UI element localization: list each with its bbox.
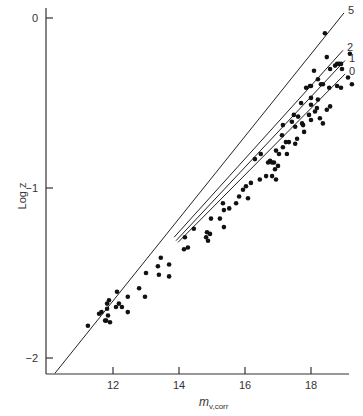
data-point bbox=[323, 31, 328, 36]
data-point bbox=[339, 62, 344, 67]
x-ticks: 12141618 bbox=[107, 367, 317, 391]
data-point bbox=[183, 235, 188, 240]
regression-lines bbox=[55, 13, 345, 373]
data-point bbox=[237, 194, 242, 199]
data-point bbox=[157, 272, 162, 277]
data-point bbox=[227, 206, 232, 211]
data-point bbox=[103, 318, 108, 323]
data-point bbox=[259, 152, 264, 157]
data-point bbox=[272, 160, 277, 165]
data-point bbox=[350, 82, 355, 87]
data-point bbox=[159, 255, 164, 260]
line-label-0: 0 bbox=[349, 65, 355, 77]
data-point bbox=[218, 216, 223, 221]
data-point bbox=[192, 227, 197, 232]
data-point bbox=[222, 225, 227, 230]
line-labels: 5210 bbox=[347, 4, 355, 77]
data-point bbox=[167, 274, 172, 279]
data-point bbox=[313, 109, 318, 114]
x-tick-label: 16 bbox=[239, 379, 251, 391]
y-tick-label: 0 bbox=[32, 12, 38, 24]
data-point bbox=[293, 125, 298, 130]
data-point bbox=[285, 152, 290, 157]
data-point bbox=[167, 262, 172, 267]
x-axis-title: mv,corr bbox=[199, 395, 229, 411]
data-point bbox=[339, 85, 344, 90]
data-point bbox=[321, 121, 326, 126]
line-label-1: 1 bbox=[349, 52, 355, 64]
line-label-5: 5 bbox=[348, 4, 354, 16]
data-point bbox=[208, 232, 213, 237]
data-point bbox=[292, 113, 297, 118]
data-point bbox=[107, 298, 112, 303]
data-point bbox=[270, 174, 275, 179]
data-point bbox=[325, 55, 330, 60]
data-point bbox=[264, 174, 269, 179]
data-point bbox=[204, 235, 209, 240]
data-point bbox=[319, 82, 324, 87]
data-point bbox=[340, 67, 345, 72]
data-point bbox=[249, 181, 254, 186]
data-point bbox=[287, 140, 292, 145]
data-point bbox=[281, 145, 286, 150]
data-point bbox=[126, 310, 131, 315]
data-point bbox=[309, 118, 314, 123]
data-point bbox=[325, 108, 330, 113]
data-point bbox=[295, 136, 300, 141]
line-5 bbox=[55, 13, 344, 373]
data-point bbox=[301, 123, 306, 128]
data-point bbox=[328, 104, 333, 109]
data-point bbox=[312, 68, 317, 73]
data-point bbox=[318, 116, 323, 121]
data-point bbox=[327, 85, 332, 90]
data-point bbox=[114, 305, 119, 310]
y-ticks: 0−1−2 bbox=[25, 12, 53, 364]
y-tick-label: −2 bbox=[25, 352, 38, 364]
data-point bbox=[316, 97, 321, 102]
data-point bbox=[137, 286, 142, 291]
data-point bbox=[126, 295, 131, 300]
data-point bbox=[293, 142, 298, 147]
x-tick-label: 14 bbox=[173, 379, 185, 391]
data-points bbox=[86, 31, 355, 328]
data-point bbox=[222, 208, 227, 213]
data-point bbox=[290, 119, 295, 124]
scatter-chart: 0−1−2 12141618 5210 Log z mv,corr bbox=[0, 0, 363, 416]
data-point bbox=[209, 216, 214, 221]
data-point bbox=[276, 164, 281, 169]
data-point bbox=[309, 96, 314, 101]
data-point bbox=[86, 323, 91, 328]
data-point bbox=[316, 77, 321, 82]
data-point bbox=[156, 264, 161, 269]
line-1 bbox=[176, 61, 345, 241]
data-point bbox=[253, 157, 258, 162]
data-point bbox=[302, 130, 307, 135]
data-point bbox=[274, 177, 279, 182]
data-point bbox=[99, 310, 104, 315]
x-tick-label: 12 bbox=[107, 379, 119, 391]
data-point bbox=[234, 201, 239, 206]
data-point bbox=[143, 295, 148, 300]
data-point bbox=[296, 114, 301, 119]
data-point bbox=[328, 67, 333, 72]
data-point bbox=[281, 123, 286, 128]
x-tick-label: 18 bbox=[305, 379, 317, 391]
data-point bbox=[115, 289, 120, 294]
data-point bbox=[244, 184, 249, 189]
data-point bbox=[120, 305, 125, 310]
data-point bbox=[182, 247, 187, 252]
data-point bbox=[105, 306, 110, 311]
data-point bbox=[304, 85, 309, 90]
data-point bbox=[309, 102, 314, 107]
data-point bbox=[144, 271, 149, 276]
data-point bbox=[309, 84, 314, 89]
data-point bbox=[246, 196, 251, 201]
data-point bbox=[307, 113, 312, 118]
data-point bbox=[106, 313, 111, 318]
data-point bbox=[299, 101, 304, 106]
data-point bbox=[274, 148, 279, 153]
data-point bbox=[280, 133, 285, 138]
y-axis-title: Log z bbox=[16, 183, 28, 210]
data-point bbox=[258, 177, 263, 182]
data-point bbox=[221, 201, 226, 206]
